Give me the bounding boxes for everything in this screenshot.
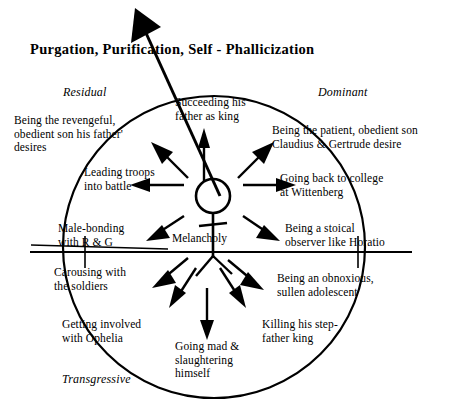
option-label-succeeding-king: Succeeding his father as king (175, 96, 295, 123)
stick-figure-leg-left (196, 256, 213, 276)
stick-figure-arms (199, 223, 227, 226)
option-label-patient-son: Being the patient, obedient son Claudius… (272, 124, 447, 151)
arrow-stoical-observer (243, 216, 280, 241)
option-label-male-bonding: Male-bonding with R & G (58, 222, 178, 249)
option-label-going-mad: Going mad & slaughtering himself (175, 340, 265, 381)
arrow-obnoxious-teen (228, 260, 264, 290)
quadrant-label-dominant: Dominant (318, 85, 368, 100)
page-title: Purgation, Purification, Self - Phallici… (30, 41, 314, 58)
arrow-patient-son (238, 142, 274, 178)
option-label-college: Going back to college at Wittenberg (280, 172, 410, 199)
hamlet-options-diagram: Purgation, Purification, Self - Phallici… (0, 0, 451, 411)
option-label-obnoxious-teen: Being an obnoxious, sullen adolescent (277, 272, 427, 299)
option-label-revengeful-son: Being the revengeful, obedient son his f… (14, 114, 164, 155)
arrow-killing-king (220, 268, 246, 308)
option-label-stoical-observer: Being a stoical observer like Horatio (285, 222, 425, 249)
option-label-carousing: Carousing with the soldiers (54, 266, 174, 293)
center-figure-label: Melancholy (172, 232, 227, 244)
arrow-going-mad (200, 288, 214, 340)
option-label-ophelia: Getting involved with Ophelia (62, 318, 182, 345)
quadrant-label-residual: Residual (63, 85, 107, 100)
option-label-killing-king: Killing his step- father king (262, 318, 382, 345)
option-label-leading-troops: Leading troops into battle (84, 166, 194, 193)
quadrant-label-transgressive: Transgressive (62, 372, 131, 387)
